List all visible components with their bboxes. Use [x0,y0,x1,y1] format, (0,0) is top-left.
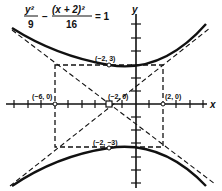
right-point [161,102,165,106]
top-vertex-point [107,63,111,67]
center-label: (−2, 0) [108,93,128,101]
lower-branch [12,147,206,186]
center-point [106,101,112,107]
minus-sign: − [42,11,48,22]
x-axis-label: x [209,99,216,110]
hyperbola-diagram: x y (−2, 3) (−2, −3) (−2, 0) (−6, 0) (2,… [0,0,222,191]
left-point-label: (−6, 0) [32,93,52,101]
term1-numerator: y² [24,4,35,15]
top-vertex-label: (−2, 3) [95,55,115,63]
term2-denominator: 16 [66,19,78,30]
equation-rhs: = 1 [95,11,110,22]
right-point-label: (2, 0) [165,93,181,101]
term2-numerator: (x + 2)² [52,4,85,15]
equation: y² 9 − (x + 2)² 16 = 1 [24,4,110,30]
bottom-vertex-point [107,146,111,150]
left-point [53,102,57,106]
term1-denominator: 9 [28,19,34,30]
y-axis-label: y [131,4,138,15]
bottom-vertex-label: (−2, −3) [93,139,118,147]
